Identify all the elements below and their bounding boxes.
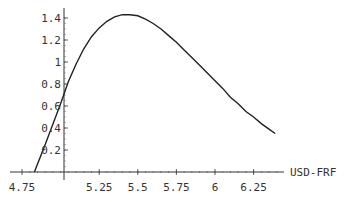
y-tick-label: 0.6 (41, 100, 61, 113)
x-tick-label: 4.75 (9, 181, 36, 194)
y-tick-label: 0.4 (41, 122, 61, 135)
x-tick-label: 5.75 (163, 181, 190, 194)
data-line (34, 15, 275, 172)
line-chart: 4.755.255.55.7566.25 0.20.40.60.811.21.4… (0, 0, 356, 203)
y-tick-label: 1 (54, 56, 61, 69)
x-axis-ticks: 4.755.255.55.7566.25 (9, 169, 267, 194)
y-tick-label: 1.4 (41, 12, 61, 25)
y-tick-label: 0.2 (41, 144, 61, 157)
x-tick-label: 5.5 (128, 181, 148, 194)
x-tick-label: 6 (212, 181, 219, 194)
x-tick-label: 5.25 (86, 181, 113, 194)
x-tick-label: 6.25 (240, 181, 267, 194)
y-tick-label: 1.2 (41, 34, 61, 47)
x-axis-label: USD-FRF (290, 166, 336, 179)
y-tick-label: 0.8 (41, 78, 61, 91)
